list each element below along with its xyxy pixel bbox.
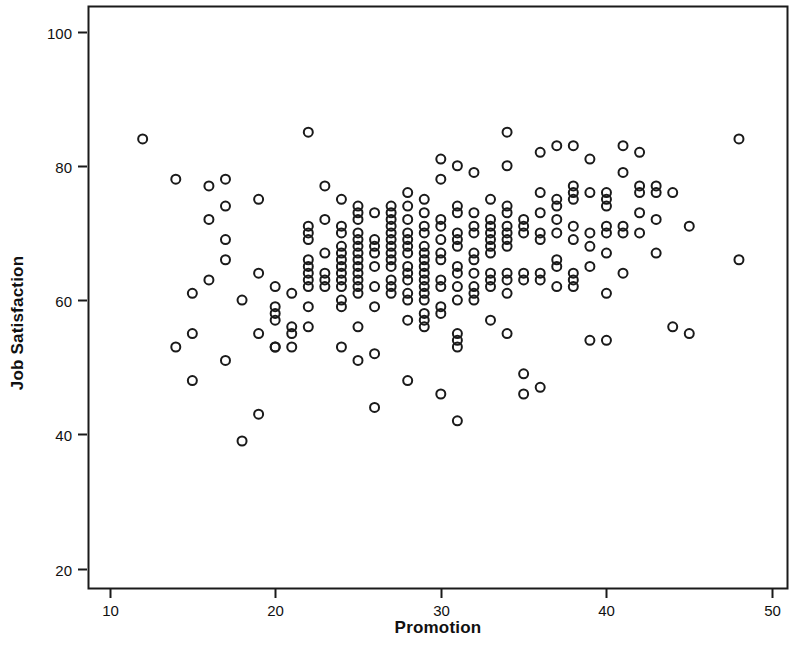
y-tick-label: 100 xyxy=(26,24,72,41)
x-tick-label: 20 xyxy=(253,602,299,619)
x-tick-label: 50 xyxy=(750,602,794,619)
y-tick-label: 40 xyxy=(26,426,72,443)
scatter-plot-figure: Job Satisfaction Promotion 1020304050204… xyxy=(0,0,794,646)
y-tick-label: 60 xyxy=(26,292,72,309)
plot-canvas xyxy=(0,0,794,646)
x-axis-title: Promotion xyxy=(88,618,788,638)
x-tick-label: 10 xyxy=(88,602,134,619)
y-tick-label: 80 xyxy=(26,158,72,175)
x-tick-label: 30 xyxy=(419,602,465,619)
x-tick-label: 40 xyxy=(584,602,630,619)
y-axis-title: Job Satisfaction xyxy=(0,0,36,646)
y-tick-label: 20 xyxy=(26,561,72,578)
